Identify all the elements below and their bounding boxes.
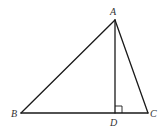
label-d: D — [109, 117, 118, 128]
segment-ab — [21, 20, 115, 113]
label-c: C — [150, 108, 157, 119]
segment-ac — [115, 20, 148, 113]
label-b: B — [11, 108, 17, 119]
right-angle-marker — [115, 106, 122, 113]
triangle-diagram: A B C D — [0, 0, 167, 132]
label-a: A — [109, 6, 117, 17]
